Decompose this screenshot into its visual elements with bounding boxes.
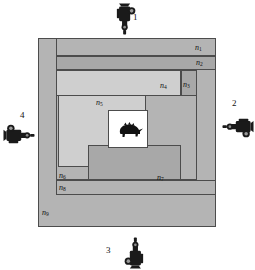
region-label-index: 3 [187, 83, 190, 89]
region-label-n3: n3 [183, 81, 190, 90]
camera-3-number: 3 [106, 246, 111, 255]
camera-4-number: 4 [20, 111, 25, 120]
camera-3-icon[interactable] [118, 236, 152, 270]
region-n1 [56, 38, 216, 56]
region-n8 [56, 180, 216, 195]
region-label-index: 8 [63, 186, 66, 192]
region-label-n5: n5 [96, 99, 103, 108]
region-n7 [88, 145, 181, 180]
region-label-index: 6 [63, 174, 66, 180]
region-label-n4: n4 [160, 82, 167, 91]
camera-2-icon[interactable] [221, 110, 255, 144]
region-n2 [56, 56, 216, 70]
region-label-index: 7 [161, 176, 164, 182]
camera-1-number: 1 [133, 13, 138, 22]
region-label-index: 5 [100, 101, 103, 107]
region-label-index: 9 [46, 211, 49, 217]
region-label-index: 2 [200, 61, 203, 67]
region-label-n9: n9 [42, 209, 49, 218]
region-label-n7: n7 [157, 174, 164, 183]
region-label-index: 4 [164, 84, 167, 90]
region-label-n8: n8 [59, 184, 66, 193]
region-label-n6: n6 [59, 172, 66, 181]
region-label-n2: n2 [196, 59, 203, 68]
region-label-index: 1 [199, 46, 202, 52]
camera-2-number: 2 [232, 99, 237, 108]
region-label-n1: n1 [195, 44, 202, 53]
armadillo-silhouette-icon [114, 121, 144, 139]
camera-4-icon[interactable] [2, 118, 36, 152]
